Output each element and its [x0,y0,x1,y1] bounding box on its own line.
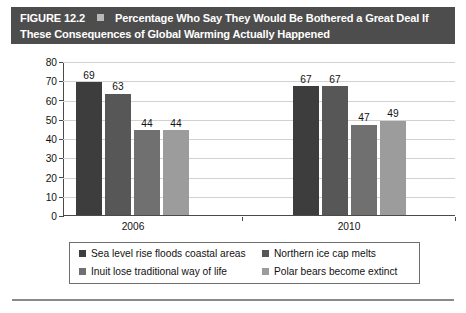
y-tick-label: 50 [29,114,57,125]
legend-item-ice-cap[interactable]: Northern ice cap melts [262,248,376,259]
figure-title-bar: FIGURE 12.2Percentage Who Say They Would… [11,7,455,44]
x-group-label-2010: 2010 [338,221,361,232]
legend-item-polar-bears[interactable]: Polar bears become extinct [262,266,397,277]
square-bullet-icon [97,14,104,21]
x-axis-line [63,215,455,216]
data-label: 49 [387,108,398,119]
footer-divider [12,299,454,301]
bar-2006-ice-cap [105,94,131,215]
y-tick-label: 80 [29,57,57,68]
x-group-label-2006: 2006 [122,221,145,232]
y-tick-label: 0 [29,211,57,222]
bar-2010-polar-bears [380,121,406,215]
bar-2006-sea-level [76,82,102,215]
legend-swatch-icon [79,250,86,257]
legend-label: Polar bears become extinct [274,266,397,277]
y-tick-label: 60 [29,95,57,106]
y-tick-label: 40 [29,134,57,145]
data-label: 44 [141,118,152,129]
legend-label: Northern ice cap melts [274,248,376,259]
bar-2010-sea-level [293,86,319,215]
data-label: 67 [300,74,311,85]
bar-2006-polar-bears [163,130,189,215]
y-tick-label: 30 [29,153,57,164]
bar-2010-inuit [351,125,377,216]
y-tick-label: 70 [29,76,57,87]
y-tick-label: 20 [29,172,57,183]
data-label: 47 [358,112,369,123]
legend-swatch-icon [79,268,86,275]
data-label: 67 [329,74,340,85]
data-label: 44 [170,118,181,129]
legend-swatch-icon [262,268,269,275]
y-tick-label: 10 [29,191,57,202]
legend: Sea level rise floods coastal areas Nort… [69,242,420,284]
data-label: 69 [83,70,94,81]
bar-2006-inuit [134,130,160,215]
legend-item-sea-level[interactable]: Sea level rise floods coastal areas [79,248,246,259]
legend-label: Inuit lose traditional way of life [91,266,227,277]
figure-number: FIGURE 12.2 [20,12,85,24]
data-label: 63 [112,81,123,92]
legend-item-inuit[interactable]: Inuit lose traditional way of life [79,266,227,277]
legend-swatch-icon [262,250,269,257]
bar-2010-ice-cap [322,86,348,215]
figure-container: FIGURE 12.2Percentage Who Say They Would… [0,0,466,313]
legend-label: Sea level rise floods coastal areas [91,248,246,259]
